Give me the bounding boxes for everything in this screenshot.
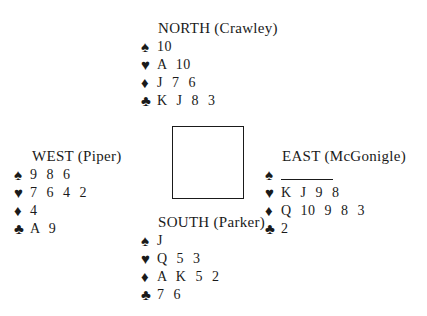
heart-icon: ♥: [141, 250, 155, 268]
north-diamonds: J 7 6: [157, 74, 196, 92]
east-clubs-row: ♣ 2: [265, 220, 406, 238]
diamond-icon: ♦: [14, 202, 28, 220]
north-diamonds-row: ♦ J 7 6: [141, 74, 278, 92]
east-hand: EAST (McGonigle) ♠ ♥ K J 9 8 ♦ Q 10 9 8 …: [265, 146, 406, 238]
west-spades: 9 8 6: [30, 166, 71, 184]
west-spades-row: ♠ 9 8 6: [14, 166, 122, 184]
north-hearts: A 10: [157, 56, 191, 74]
east-diamonds-row: ♦ Q 10 9 8 3: [265, 202, 406, 220]
heart-icon: ♥: [14, 184, 28, 202]
diamond-icon: ♦: [141, 268, 155, 286]
west-hearts: 7 6 4 2: [30, 184, 87, 202]
north-spades: 10: [157, 38, 172, 56]
west-hand: WEST (Piper) ♠ 9 8 6 ♥ 7 6 4 2 ♦ 4 ♣ A 9: [14, 146, 122, 238]
south-diamonds-row: ♦ A K 5 2: [141, 268, 265, 286]
south-diamonds: A K 5 2: [157, 268, 219, 286]
club-icon: ♣: [141, 92, 155, 110]
void-line: [281, 179, 333, 180]
north-title: NORTH (Crawley): [158, 18, 278, 38]
heart-icon: ♥: [141, 56, 155, 74]
east-spades-row: ♠: [265, 166, 406, 184]
south-clubs: 7 6: [157, 286, 181, 304]
south-title: SOUTH (Parker): [158, 212, 265, 232]
west-diamonds-row: ♦ 4: [14, 202, 122, 220]
west-clubs: A 9: [30, 220, 56, 238]
west-diamonds: 4: [30, 202, 38, 220]
table-square: [172, 126, 244, 199]
south-spades-row: ♠ J: [141, 232, 265, 250]
heart-icon: ♥: [265, 184, 279, 202]
south-hand: SOUTH (Parker) ♠ J ♥ Q 5 3 ♦ A K 5 2 ♣ 7…: [141, 212, 265, 304]
west-title: WEST (Piper): [32, 146, 122, 166]
north-hand: NORTH (Crawley) ♠ 10 ♥ A 10 ♦ J 7 6 ♣ K …: [141, 18, 278, 110]
north-clubs: K J 8 3: [157, 92, 216, 110]
spade-icon: ♠: [265, 166, 279, 184]
south-clubs-row: ♣ 7 6: [141, 286, 265, 304]
club-icon: ♣: [265, 220, 279, 238]
south-spades: J: [157, 232, 163, 250]
club-icon: ♣: [141, 286, 155, 304]
south-hearts: Q 5 3: [157, 250, 201, 268]
east-clubs: 2: [281, 220, 289, 238]
east-title: EAST (McGonigle): [282, 146, 406, 166]
spade-icon: ♠: [141, 232, 155, 250]
east-diamonds: Q 10 9 8 3: [281, 202, 365, 220]
east-hearts: K J 9 8: [281, 184, 340, 202]
north-hearts-row: ♥ A 10: [141, 56, 278, 74]
spade-icon: ♠: [141, 38, 155, 56]
west-clubs-row: ♣ A 9: [14, 220, 122, 238]
north-spades-row: ♠ 10: [141, 38, 278, 56]
spade-icon: ♠: [14, 166, 28, 184]
club-icon: ♣: [14, 220, 28, 238]
diamond-icon: ♦: [265, 202, 279, 220]
north-clubs-row: ♣ K J 8 3: [141, 92, 278, 110]
east-hearts-row: ♥ K J 9 8: [265, 184, 406, 202]
diamond-icon: ♦: [141, 74, 155, 92]
west-hearts-row: ♥ 7 6 4 2: [14, 184, 122, 202]
south-hearts-row: ♥ Q 5 3: [141, 250, 265, 268]
